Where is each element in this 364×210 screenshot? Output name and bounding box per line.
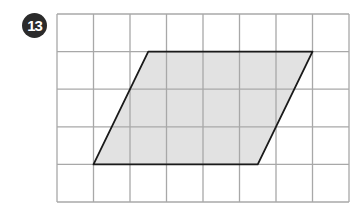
square-grid bbox=[57, 14, 349, 202]
grid-figure bbox=[0, 0, 364, 210]
